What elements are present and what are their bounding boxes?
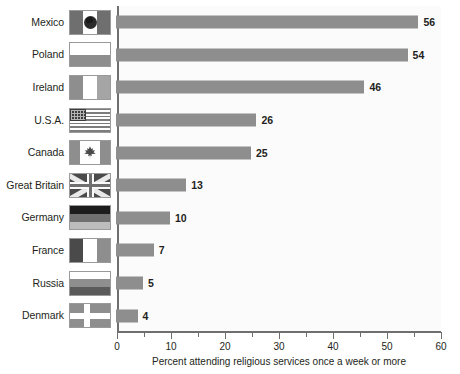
category-label: Denmark bbox=[0, 310, 64, 321]
x-axis-tick bbox=[360, 332, 361, 337]
flag-denmark-icon bbox=[69, 303, 111, 328]
x-axis-tick-label: 50 bbox=[381, 341, 392, 352]
x-axis-tick bbox=[306, 332, 307, 337]
bar-value-label: 7 bbox=[159, 244, 165, 256]
bar-row: France7 bbox=[0, 234, 460, 267]
bar bbox=[116, 16, 418, 29]
bar-value-label: 13 bbox=[191, 179, 203, 191]
bar-value-label: 4 bbox=[143, 310, 149, 322]
x-axis-tick bbox=[144, 332, 145, 337]
bar-row: Germany10 bbox=[0, 202, 460, 235]
bar-track: 5 bbox=[116, 267, 460, 300]
bar bbox=[116, 211, 170, 224]
bar-row: U.S.A.26 bbox=[0, 104, 460, 137]
category-label: U.S.A. bbox=[0, 115, 64, 126]
horizontal-bar-chart: Mexico56Poland54Ireland46U.S.A.26Canada2… bbox=[0, 0, 460, 374]
x-axis-tick-label: 60 bbox=[435, 341, 446, 352]
flag-canada-icon bbox=[69, 140, 111, 165]
bar-track: 10 bbox=[116, 202, 460, 235]
x-axis-tick bbox=[117, 332, 118, 339]
bar-value-label: 46 bbox=[369, 81, 381, 93]
bar-row: Ireland46 bbox=[0, 71, 460, 104]
x-axis-title: Percent attending religious services onc… bbox=[117, 356, 441, 367]
bar bbox=[116, 244, 154, 257]
bar bbox=[116, 114, 256, 127]
bar-row: Canada25 bbox=[0, 136, 460, 169]
flag-mexico-icon bbox=[69, 10, 111, 35]
flag-usa-icon bbox=[69, 108, 111, 133]
flag-ireland-icon bbox=[69, 75, 111, 100]
bar bbox=[116, 277, 143, 290]
bar-row: Great Britain13 bbox=[0, 169, 460, 202]
x-axis-tick-label: 30 bbox=[273, 341, 284, 352]
bar-track: 13 bbox=[116, 169, 460, 202]
bar-row: Russia5 bbox=[0, 267, 460, 300]
bar-value-label: 54 bbox=[413, 49, 425, 61]
x-axis-tick bbox=[414, 332, 415, 337]
x-axis-tick bbox=[333, 332, 334, 339]
x-axis-tick bbox=[387, 332, 388, 339]
bar-row: Mexico56 bbox=[0, 6, 460, 39]
bar-track: 56 bbox=[116, 6, 460, 39]
bar-value-label: 56 bbox=[423, 16, 435, 28]
bar bbox=[116, 146, 251, 159]
category-label: Canada bbox=[0, 147, 64, 158]
category-label: Russia bbox=[0, 278, 64, 289]
flag-poland-icon bbox=[69, 42, 111, 67]
x-axis-tick bbox=[171, 332, 172, 339]
bar-track: 25 bbox=[116, 136, 460, 169]
bar bbox=[116, 81, 364, 94]
x-axis-tick bbox=[441, 332, 442, 339]
bar-row: Denmark4 bbox=[0, 299, 460, 332]
x-axis-tick-label: 0 bbox=[114, 341, 120, 352]
bar-value-label: 25 bbox=[256, 147, 268, 159]
category-label: Germany bbox=[0, 212, 64, 223]
x-axis-tick bbox=[279, 332, 280, 339]
bar-track: 7 bbox=[116, 234, 460, 267]
bar bbox=[116, 48, 408, 61]
category-label: Poland bbox=[0, 49, 64, 60]
category-label: Great Britain bbox=[0, 180, 64, 191]
bar-value-label: 5 bbox=[148, 277, 154, 289]
x-axis-tick bbox=[198, 332, 199, 337]
bar-row: Poland54 bbox=[0, 39, 460, 72]
bar-track: 26 bbox=[116, 104, 460, 137]
x-axis-tick bbox=[252, 332, 253, 337]
category-label: Ireland bbox=[0, 82, 64, 93]
flag-germany-icon bbox=[69, 205, 111, 230]
bar bbox=[116, 309, 138, 322]
flag-france-icon bbox=[69, 238, 111, 263]
x-axis-tick-label: 40 bbox=[327, 341, 338, 352]
x-axis-tick bbox=[225, 332, 226, 339]
bar-track: 4 bbox=[116, 299, 460, 332]
bar-track: 54 bbox=[116, 39, 460, 72]
x-axis-tick-label: 20 bbox=[219, 341, 230, 352]
bar bbox=[116, 179, 186, 192]
flag-great-britain-icon bbox=[69, 173, 111, 198]
x-axis-tick-label: 10 bbox=[165, 341, 176, 352]
flag-russia-icon bbox=[69, 271, 111, 296]
category-label: France bbox=[0, 245, 64, 256]
bar-value-label: 10 bbox=[175, 212, 187, 224]
category-label: Mexico bbox=[0, 17, 64, 28]
bar-track: 46 bbox=[116, 71, 460, 104]
bar-value-label: 26 bbox=[261, 114, 273, 126]
